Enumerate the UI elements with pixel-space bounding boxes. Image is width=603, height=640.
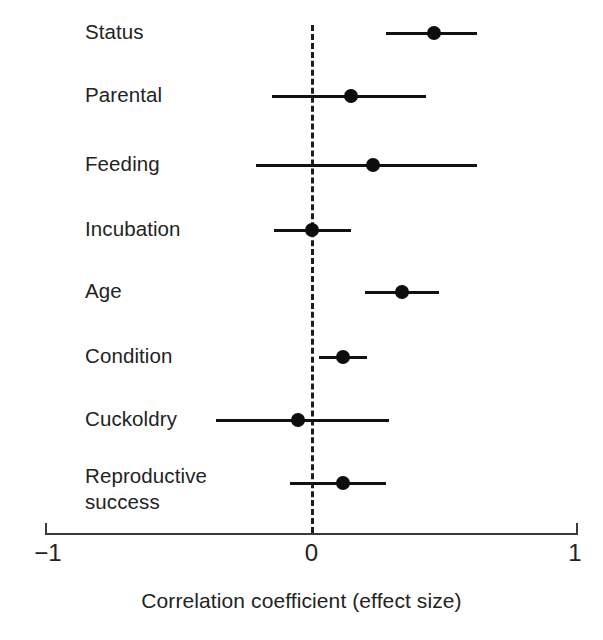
- row-label: Reproductive success: [85, 463, 207, 515]
- plot-area: StatusParentalFeedingIncubationAgeCondit…: [0, 0, 603, 640]
- effect-size-point: [366, 158, 380, 172]
- row-label: Incubation: [85, 216, 181, 242]
- effect-size-point: [336, 476, 350, 490]
- forest-plot-figure: StatusParentalFeedingIncubationAgeCondit…: [0, 0, 603, 640]
- x-axis-tick-right: [576, 523, 578, 535]
- row-label: Feeding: [85, 151, 160, 177]
- effect-size-point: [291, 413, 305, 427]
- effect-size-point: [344, 89, 358, 103]
- effect-size-point: [336, 350, 350, 364]
- row-label: Age: [85, 278, 122, 304]
- effect-size-point: [305, 223, 319, 237]
- effect-size-point: [395, 285, 409, 299]
- effect-size-point: [427, 26, 441, 40]
- x-axis-tick-left: [45, 523, 47, 535]
- x-axis-line: [45, 533, 578, 535]
- x-tick-label-minus-one: −1: [34, 539, 61, 567]
- x-tick-label-one: 1: [568, 539, 581, 567]
- row-label: Status: [85, 19, 144, 45]
- zero-reference-line: [311, 25, 314, 533]
- x-axis-title: Correlation coefficient (effect size): [0, 588, 603, 614]
- row-label: Parental: [85, 82, 162, 108]
- x-tick-label-zero: 0: [305, 539, 318, 567]
- row-label: Cuckoldry: [85, 406, 177, 432]
- row-label: Condition: [85, 343, 173, 369]
